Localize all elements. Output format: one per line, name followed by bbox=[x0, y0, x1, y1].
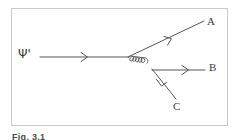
figure-caption: Fig. 3.1 bbox=[12, 132, 45, 140]
outgoing-label-c: C bbox=[173, 101, 180, 112]
outgoing-a-line bbox=[128, 21, 204, 57]
gluon-coil-line bbox=[129, 56, 148, 63]
outgoing-label-a: A bbox=[207, 16, 215, 27]
feynman-diagram-canvas bbox=[0, 0, 239, 140]
outgoing-label-b: B bbox=[209, 62, 216, 73]
outgoing-a-arrowhead bbox=[164, 37, 172, 46]
figure-root: Ψ' A B C Fig. 3.1 bbox=[0, 0, 239, 140]
incoming-particle-label: Ψ' bbox=[18, 48, 31, 60]
